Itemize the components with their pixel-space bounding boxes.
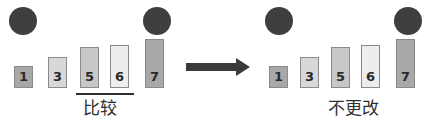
bar-item: 5 [80, 47, 99, 88]
bar-value-label: 7 [401, 70, 410, 87]
bar-item: 7 [145, 39, 164, 88]
bar-value-label: 3 [53, 70, 62, 87]
bar-item: 3 [48, 57, 67, 88]
comparison-underline [76, 93, 134, 95]
bar-value-label: 1 [274, 70, 283, 87]
bar-item: 5 [331, 47, 350, 88]
diagram-canvas: 1 3 5 6 7 比较 1 3 5 6 [0, 0, 433, 129]
bar-value-label: 7 [150, 70, 159, 87]
bar-value-label: 1 [19, 70, 28, 87]
panel-caption-after: 不更改 [328, 100, 379, 117]
panel-caption-before: 比较 [83, 100, 117, 117]
bar-value-label: 5 [336, 70, 345, 87]
bar-item: 1 [14, 66, 33, 88]
bar-value-label: 5 [85, 70, 94, 87]
arrow-shaft [186, 63, 238, 71]
node-marker-left-after [265, 7, 293, 35]
bar-item: 1 [269, 66, 288, 88]
arrow-head-icon [236, 58, 250, 76]
bar-value-label: 3 [305, 70, 314, 87]
node-marker-selected-after [394, 7, 422, 35]
bar-value-label: 6 [115, 70, 124, 87]
node-marker-selected-before [143, 7, 171, 35]
bar-item: 6 [110, 45, 129, 88]
bar-item: 7 [396, 39, 415, 88]
bar-item: 6 [361, 45, 380, 88]
bar-item: 3 [300, 57, 319, 88]
bar-value-label: 6 [366, 70, 375, 87]
node-marker-left-before [9, 7, 37, 35]
